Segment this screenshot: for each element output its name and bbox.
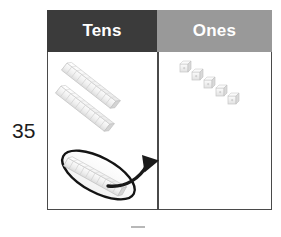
cell-tens [47,52,157,210]
place-value-diagram: 35 Tens Ones [0,0,281,237]
page-artifact-mark [131,226,145,228]
number-label: 35 [12,120,35,141]
table-header-row: Tens Ones [47,10,272,52]
column-header-tens: Tens [47,10,157,52]
place-value-table: Tens Ones [47,10,272,210]
cell-ones [158,52,272,210]
column-header-ones: Ones [157,10,272,52]
